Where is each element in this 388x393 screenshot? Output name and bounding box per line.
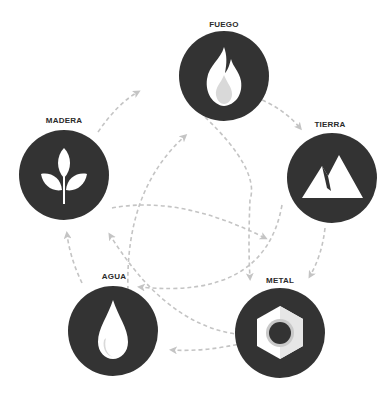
label-agua: AGUA [102, 272, 126, 281]
node-metal [235, 288, 325, 378]
arrow-agua-to-madera [67, 234, 82, 283]
label-tierra: TIERRA [315, 120, 346, 129]
arrow-metal-to-agua [172, 343, 244, 350]
node-madera [19, 130, 109, 220]
node-agua [68, 286, 158, 376]
mountain-icon [287, 133, 377, 223]
node-fuego [179, 31, 269, 121]
fire-icon [179, 31, 269, 121]
leaf-sprout-icon [19, 130, 109, 220]
label-fuego: FUEGO [209, 20, 238, 29]
arrow-agua-to-fuego [128, 136, 185, 290]
arrow-madera-to-tierra [112, 205, 265, 238]
label-madera: MADERA [46, 116, 82, 125]
water-drop-icon [68, 286, 158, 376]
arrow-fuego-to-metal [205, 117, 252, 278]
arrow-tierra-to-agua [140, 205, 282, 289]
arrow-madera-to-fuego [98, 92, 138, 132]
node-tierra [287, 133, 377, 223]
hex-nut-icon [235, 288, 325, 378]
arrow-tierra-to-metal [310, 228, 325, 276]
label-metal: METAL [266, 276, 294, 285]
